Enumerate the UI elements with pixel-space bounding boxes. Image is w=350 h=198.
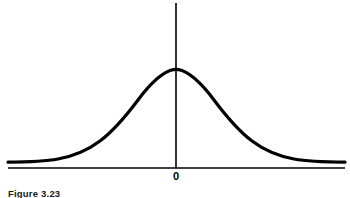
figure-caption: Figure 3.23 [8, 188, 60, 198]
bell-curve-plot [0, 0, 350, 198]
figure-container: 0 Figure 3.23 [0, 0, 350, 198]
